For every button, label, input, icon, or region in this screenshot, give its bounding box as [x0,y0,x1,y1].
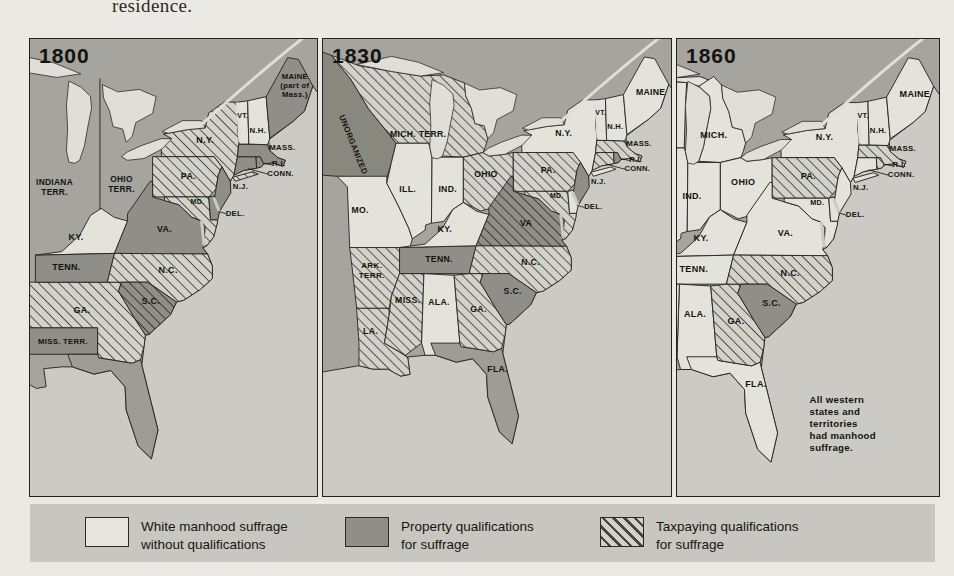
map-label: MD. [190,197,204,206]
map-label: N.Y. [555,128,572,138]
map-label: GA. [728,316,745,326]
map-label: MASS. [269,143,295,152]
legend-swatch-dark [345,517,389,547]
map-label: KY. [694,233,709,243]
map-label: GA. [470,304,486,314]
map-label: PA. [541,165,556,175]
map-1860: MAINEVT.N.H.MASS.R.I.CONN.N.Y.PA.N.J.MD.… [677,39,939,496]
map-label: VA. [157,224,172,234]
legend-label: Property qualifications for suffrage [401,517,534,554]
map-panel-1860: 1860 MAINEVT.N.H.MASS.R.I.CONN.N.Y.PA.N.… [676,38,940,497]
map-label: IND. [682,191,701,201]
map-label: S.C. [141,296,160,306]
legend-label: Taxpaying qualifications for suffrage [656,517,799,554]
map-label: ALA. [684,309,706,319]
legend-item-white-manhood: White manhood suffrage without qualifica… [85,517,288,554]
region-fl [68,354,158,458]
map-label: TENN. [52,262,80,272]
map-label: N.H. [870,126,887,135]
map-label: R.I. [272,159,285,168]
map-1800: MAINE(part ofMass.)VT.N.H.MASS.R.I.CONN.… [30,39,317,496]
map-label: DEL. [584,202,602,211]
region-fl [687,357,778,462]
map-label: PA. [181,171,196,181]
map-label: VA [520,218,532,228]
map-label: LA. [363,326,378,336]
map-label: S.C. [504,286,522,296]
map-label: OHIO [731,177,755,187]
map-label: DEL. [226,209,245,218]
page-top-text: residence. [112,0,192,17]
map-label: CONN. [267,169,293,178]
map-label: N.C. [521,257,540,267]
map-label: N.H. [249,126,266,135]
map-label: OHIO [474,169,497,179]
region-fl [431,343,519,444]
map-label: N.Y. [196,135,214,145]
map-label: N.J. [591,177,606,186]
map-label: N.Y. [816,132,834,142]
map-label: All westernstates andterritorieshad manh… [810,394,876,453]
legend-swatch-hatch [600,517,644,547]
map-label: ALA. [428,297,449,307]
map-label: R.I. [893,160,906,169]
map-label: MASS. [890,144,916,153]
map-label: MISS. [395,295,420,305]
map-label: MISS. TERR. [38,337,88,346]
map-label: MAINE(part ofMass.) [280,72,309,99]
year-label-1830: 1830 [332,44,383,68]
map-label: TENN. [425,254,453,264]
map-label: FLA. [745,379,766,389]
map-label: R.I. [629,155,642,164]
map-label: IND. [438,184,457,194]
map-panel-1830: 1830 MAINEVT.N.H.MASS.R.I.CONN.N.Y.PA.N.… [322,38,672,497]
map-1830: MAINEVT.N.H.MASS.R.I.CONN.N.Y.PA.N.J.MD.… [323,39,671,496]
legend-item-property: Property qualifications for suffrage [345,517,534,554]
legend-item-taxpaying: Taxpaying qualifications for suffrage [600,517,799,554]
map-label: GA. [74,305,91,315]
legend-label: White manhood suffrage without qualifica… [141,517,288,554]
map-label: MASS. [626,139,651,148]
map-label: CONN. [625,164,651,173]
map-label: INDIANATERR. [36,177,73,197]
map-label: N.C. [781,268,800,278]
map-label: CONN. [888,170,915,179]
map-label: ARK.TERR. [359,261,385,279]
map-label: N.H. [607,122,623,131]
map-panel-1800: 1800 MAINE(part ofMass.)VT.N.H.MASS.R.I.… [29,38,318,497]
map-label: VT. [857,111,868,120]
map-label: MAINE [636,87,665,97]
map-label: MICH. TERR. [390,129,446,139]
map-label: VT. [595,109,606,116]
year-label-1800: 1800 [39,44,90,68]
map-label: S.C. [762,298,781,308]
map-label: KY. [438,224,452,234]
map-label: MAINE [900,89,931,99]
map-label: N.J. [853,183,869,192]
map-label: FLA. [487,364,507,374]
year-label-1860: 1860 [686,44,737,68]
map-label: DEL. [846,210,865,219]
map-label: VA. [778,228,793,238]
map-label: VT. [237,111,248,120]
legend-swatch-plain [85,517,129,547]
map-label: N.C. [159,265,178,275]
legend: White manhood suffrage without qualifica… [30,504,935,562]
map-label: MD. [810,198,824,207]
map-label: N.J. [233,182,248,191]
map-label: KY. [69,232,84,242]
map-label: MICH. [700,130,727,140]
map-label: PA. [801,171,816,181]
map-label: ILL. [399,184,416,194]
map-label: TENN. [680,264,709,274]
map-label: MD. [550,192,564,199]
map-label: OHIOTERR. [108,174,135,194]
map-label: MO. [351,205,368,215]
